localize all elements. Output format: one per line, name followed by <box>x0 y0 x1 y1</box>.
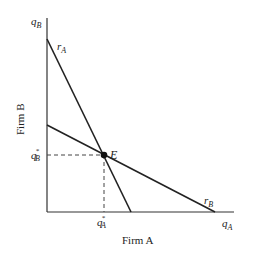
x-axis-title: Firm A <box>122 234 154 246</box>
y-axis-title: Firm B <box>14 104 26 135</box>
curve-a-label: rA <box>57 40 66 55</box>
equilibrium-point <box>101 152 108 159</box>
x-axis-var-label: qA <box>222 217 233 232</box>
qa-star-label: q*A <box>97 214 106 230</box>
reaction-function-diagram: E qB qA rA rB q*B q*A Firm A Firm B <box>0 0 256 255</box>
y-axis-var-label: qB <box>31 15 42 30</box>
reaction-curve-a <box>47 39 131 212</box>
qb-star-label: q*B <box>31 147 40 163</box>
equilibrium-label: E <box>109 148 118 162</box>
reaction-curve-b <box>47 125 215 212</box>
